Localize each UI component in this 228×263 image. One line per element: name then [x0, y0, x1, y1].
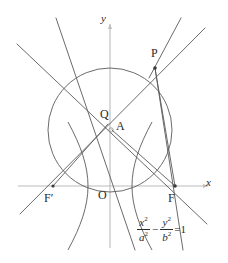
- point-label-F-prime: F′: [44, 192, 53, 204]
- figure-canvas: [0, 0, 228, 263]
- point-F-marker: [173, 184, 177, 188]
- point-Fprime-marker: [51, 184, 54, 187]
- point-label-P: P: [151, 47, 158, 59]
- point-P-marker: [153, 66, 157, 70]
- origin-label-O: O: [98, 189, 107, 201]
- x-axis-label: x: [206, 177, 211, 188]
- equation-rhs: 1: [180, 223, 186, 235]
- minus-operator: −: [152, 223, 158, 235]
- denominator-a-squared: a2: [137, 229, 150, 243]
- fraction-y-over-b: y2 b2: [160, 216, 173, 242]
- fraction-x-over-a: x2 a2: [137, 216, 150, 242]
- b-exponent: 2: [168, 230, 172, 238]
- line-Q-to-Fprime: [53, 124, 108, 186]
- point-label-Q: Q: [100, 108, 109, 120]
- point-label-F: F: [168, 192, 175, 204]
- y-axis-label: y: [101, 13, 106, 24]
- y-axis-arrow: [108, 24, 112, 29]
- y-exponent: 2: [167, 215, 171, 223]
- hyperbola-equation: x2 a2 − y2 b2 = 1: [136, 216, 186, 242]
- denominator-b-squared: b2: [160, 229, 173, 243]
- x-exponent: 2: [144, 215, 148, 223]
- line-steep-left: [56, 18, 135, 250]
- numerator-x-squared: x2: [137, 216, 149, 229]
- point-label-A: A: [116, 120, 125, 132]
- hyperbola-figure: P Q A O F F′ y x x2 a2 − y2 b2 = 1: [0, 0, 228, 263]
- a-exponent: 2: [145, 230, 149, 238]
- numerator-y-squared: y2: [161, 216, 173, 229]
- axes-group: [18, 24, 208, 248]
